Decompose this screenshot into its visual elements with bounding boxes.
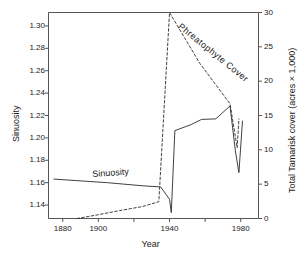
xtick-label-0: 1880: [47, 225, 79, 233]
ytick-left-label-2: 1.18: [14, 156, 45, 164]
ytick-right-label-2: 10: [264, 146, 284, 154]
ytick-left-label-5: 1.24: [14, 89, 45, 97]
y-axis-right-title: Total Tamarisk cover (acres × 1,000): [288, 47, 297, 192]
ytick-right-label-4: 20: [264, 77, 284, 85]
ytick-left-label-0: 1.14: [14, 201, 45, 209]
series-path-sinuosity: [54, 106, 243, 213]
xtick-label-1: 1900: [82, 225, 114, 233]
ytick-right-label-5: 25: [264, 43, 284, 51]
chart-figure: 1.141.161.181.201.221.241.261.281.30 051…: [0, 0, 306, 264]
x-axis-title: Year: [142, 240, 160, 249]
ytick-right-label-6: 30: [264, 9, 284, 17]
xtick-label-3: 1940: [154, 225, 186, 233]
y-axis-left-title: Sinuosity: [12, 105, 21, 142]
ytick-left-label-7: 1.28: [14, 44, 45, 52]
ytick-right-label-1: 5: [264, 180, 284, 188]
axes-frame: [49, 13, 259, 219]
series-path-phreatophyte-cover: [77, 13, 239, 219]
ytick-left-label-8: 1.30: [14, 22, 45, 30]
xtick-label-5: 1980: [225, 225, 257, 233]
data-series: [54, 13, 243, 219]
ytick-left-label-1: 1.16: [14, 179, 45, 187]
axis-ticks: [45, 13, 262, 223]
ytick-left-label-6: 1.26: [14, 67, 45, 75]
ytick-right-label-3: 15: [264, 112, 284, 120]
ytick-right-label-0: 0: [264, 215, 284, 223]
